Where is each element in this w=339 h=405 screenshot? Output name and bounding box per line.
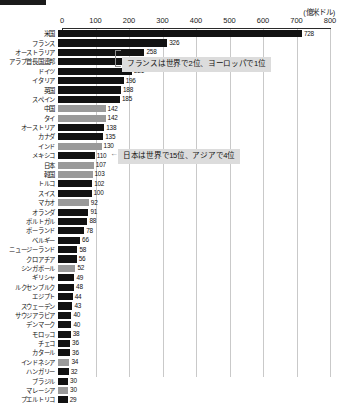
bar [58, 246, 77, 253]
bar-row: ハンガリー32 [0, 367, 339, 376]
bar-category-label: ベルギー [0, 237, 58, 244]
bar [58, 331, 71, 338]
x-tick-label: 800 [324, 16, 337, 25]
bar-row: ポーランド78 [0, 226, 339, 235]
bar-category-label: ポーランド [0, 227, 58, 234]
bar-value-label: 185 [122, 95, 132, 103]
bar-row: チェコ36 [0, 339, 339, 348]
bar-track: 36 [58, 348, 339, 357]
bar-row: ニュージーランド58 [0, 245, 339, 254]
bar-value-label: 30 [70, 386, 77, 394]
bar [58, 39, 167, 46]
bar-track: 66 [58, 236, 339, 245]
bar [58, 162, 94, 169]
bar-value-label: 56 [79, 255, 86, 263]
bar-category-label: マカオ [0, 199, 58, 206]
bar [58, 77, 124, 84]
bar-category-label: スイス [0, 190, 58, 197]
bar-row: クロアチア56 [0, 254, 339, 263]
bar [58, 143, 102, 150]
bar [58, 368, 69, 375]
bar-value-label: 36 [72, 349, 79, 357]
bar-category-label: カタール [0, 349, 58, 356]
bar-value-label: 103 [95, 170, 105, 178]
bar-row: 米国728 [0, 29, 339, 38]
annotation-france: フランスは世界で2位、ヨーロッパで1位 [122, 57, 271, 72]
bar [58, 349, 70, 356]
bar-value-label: 138 [106, 124, 116, 132]
bar-track: 49 [58, 273, 339, 282]
bar-value-label: 34 [71, 358, 78, 366]
bar-category-label: チェコ [0, 340, 58, 347]
bar [58, 199, 89, 206]
bar-row: マカオ92 [0, 198, 339, 207]
bar-track: 34 [58, 358, 339, 367]
bar-category-label: マレーシア [0, 387, 58, 394]
bar-category-label: タイ [0, 115, 58, 122]
x-tick-label: 600 [257, 16, 270, 25]
bar-track: 32 [58, 367, 339, 376]
bar-value-label: 43 [74, 302, 81, 310]
bar-track: 78 [58, 226, 339, 235]
bar [58, 115, 106, 122]
bar-row: ポルトガル88 [0, 217, 339, 226]
bar-track: 135 [58, 132, 339, 141]
bar-row: カナダ135 [0, 132, 339, 141]
bar-track: 43 [58, 301, 339, 310]
bar-value-label: 40 [73, 311, 80, 319]
bar-rows: 米国728フランス326オーストラリア258アラブ首長国連邦246ドイツ221イ… [0, 29, 339, 405]
bar-row: カタール36 [0, 348, 339, 357]
bar-category-label: 米国 [0, 30, 58, 37]
bar-category-label: クロアチア [0, 256, 58, 263]
bar-category-label: ポルトガル [0, 218, 58, 225]
bar [58, 293, 73, 300]
bar-value-label: 48 [76, 283, 83, 291]
bar [58, 227, 84, 234]
x-tick-label: 500 [223, 16, 236, 25]
bar-row: ルクセンブルク48 [0, 283, 339, 292]
bar [58, 96, 120, 103]
bar-value-label: 30 [70, 377, 77, 385]
bar-value-label: 135 [105, 133, 115, 141]
bar [58, 284, 74, 291]
bar-track: 52 [58, 264, 339, 273]
bar-category-label: シンガポール [0, 265, 58, 272]
bar-row: ギリシャ49 [0, 273, 339, 282]
bar [58, 340, 70, 347]
bar-row: スウェーデン43 [0, 301, 339, 310]
bar-value-label: 92 [91, 199, 98, 207]
france-callout-bracket [115, 50, 121, 67]
bar [58, 124, 104, 131]
bar-value-label: 258 [146, 48, 156, 56]
bar-value-label: 66 [82, 236, 89, 244]
bar-category-label: デンマーク [0, 321, 58, 328]
bar-track: 196 [58, 76, 339, 85]
bar-track: 138 [58, 123, 339, 132]
bar [58, 312, 71, 319]
bar-value-label: 326 [169, 39, 179, 47]
bar [58, 218, 87, 225]
bar-category-label: インドネシア [0, 359, 58, 366]
bar-category-label: オーストラリア [0, 49, 58, 56]
bar-category-label: アラブ首長国連邦 [0, 58, 58, 65]
x-tick-label: 200 [123, 16, 136, 25]
bar-track: 185 [58, 95, 339, 104]
bar-row: ベルギー66 [0, 236, 339, 245]
bar-row: トルコ102 [0, 179, 339, 188]
bar [58, 359, 69, 366]
bar-track: 38 [58, 330, 339, 339]
bar-category-label: オランダ [0, 209, 58, 216]
bar-track: 36 [58, 339, 339, 348]
bar-track: 728 [58, 29, 339, 38]
bar-row: タイ142 [0, 114, 339, 123]
bar-category-label: ブラジル [0, 378, 58, 385]
bar-category-label: スウェーデン [0, 303, 58, 310]
bar-value-label: 44 [75, 293, 82, 301]
bar-track: 142 [58, 114, 339, 123]
bar-row: マレーシア30 [0, 386, 339, 395]
bar-category-label: インド [0, 143, 58, 150]
bar-value-label: 107 [96, 161, 106, 169]
bar-row: デンマーク40 [0, 320, 339, 329]
bar-category-label: 韓国 [0, 171, 58, 178]
